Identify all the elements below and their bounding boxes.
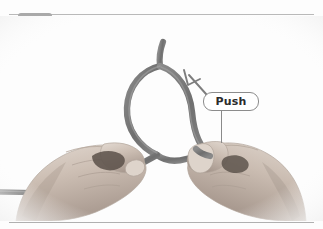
bottom-divider-rule [9,222,314,223]
push-callout: Push [203,92,259,111]
callout-leader-line [221,110,222,143]
push-callout-label: Push [215,96,246,107]
top-divider-rule [9,14,314,15]
photo-vignette [0,16,323,221]
instruction-step-panel: 3 [0,0,323,229]
instruction-photograph [0,16,323,221]
